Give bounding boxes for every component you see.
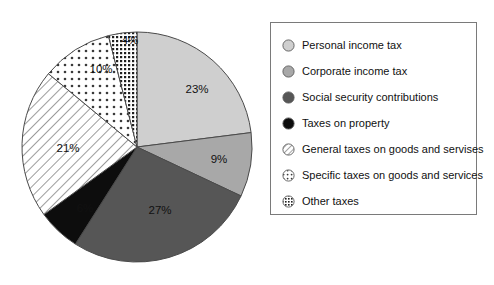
pie-slice-data-label: 21%	[56, 142, 79, 154]
legend-item-label: Other taxes	[302, 195, 359, 208]
legend-item-label: General taxes on goods and servises	[302, 143, 484, 156]
legend-swatch-circle-black	[282, 117, 295, 130]
legend-item-list: Personal income taxCorporate income taxS…	[282, 32, 472, 214]
legend-item-label: Specific taxes on goods and services	[302, 169, 483, 182]
legend-swatch-circle-medium-gray	[282, 65, 295, 78]
legend-item[interactable]: Other taxes	[282, 188, 472, 214]
chart-legend: Personal income taxCorporate income taxS…	[270, 22, 477, 215]
pie-chart-figure: 23%9%27%6%21%10%4% Personal income taxCo…	[0, 0, 494, 285]
legend-item[interactable]: Social security contributions	[282, 84, 472, 110]
pie-slice-data-label: 6%	[77, 202, 94, 214]
pie-slice-data-label: 4%	[122, 34, 139, 46]
legend-item[interactable]: Taxes on property	[282, 110, 472, 136]
pie-slice-data-label: 27%	[148, 204, 171, 216]
pie-slice-data-label: 9%	[211, 153, 228, 165]
legend-swatch-circle-dark-gray	[282, 91, 295, 104]
legend-item[interactable]: Specific taxes on goods and services	[282, 162, 472, 188]
legend-item[interactable]: General taxes on goods and servises	[282, 136, 472, 162]
legend-item[interactable]: Personal income tax	[282, 32, 472, 58]
legend-item-label: Personal income tax	[302, 39, 402, 52]
legend-swatch-circle-dots	[282, 169, 295, 182]
legend-item-label: Social security contributions	[302, 91, 438, 104]
legend-item-label: Corporate income tax	[302, 65, 407, 78]
legend-item[interactable]: Corporate income tax	[282, 58, 472, 84]
pie-slice-data-label: 10%	[89, 63, 112, 75]
pie-slice-data-label: 23%	[185, 83, 208, 95]
legend-swatch-circle-grid-check	[282, 195, 295, 208]
legend-swatch-circle-diagonal-hatch	[282, 143, 295, 156]
legend-item-label: Taxes on property	[302, 117, 389, 130]
legend-swatch-circle-light-gray	[282, 39, 295, 52]
